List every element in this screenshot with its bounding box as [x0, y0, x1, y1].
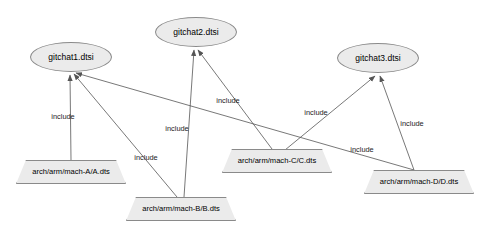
ellipse-node-label: gitchat3.dtsi [355, 54, 400, 63]
trapezoid-node-label: arch/arm/mach-B/B.dts [142, 205, 220, 213]
trapezoid-node-label: arch/arm/mach-A/A.dts [32, 168, 110, 176]
ellipse-node-gitchat3[interactable]: gitchat3.dtsi [337, 43, 419, 73]
edge-machC-to-gitchat3 [285, 76, 375, 150]
diagram-canvas: gitchat1.dtsigitchat2.dtsigitchat3.dtsia… [0, 0, 483, 236]
ellipse-node-gitchat1[interactable]: gitchat1.dtsi [30, 42, 112, 72]
trapezoid-node-machD[interactable]: arch/arm/mach-D/D.dts [364, 170, 474, 194]
trapezoid-node-machB[interactable]: arch/arm/mach-B/B.dts [126, 197, 236, 221]
ellipse-node-label: gitchat2.dtsi [173, 28, 218, 37]
edge-label-e5: include [216, 97, 239, 104]
edge-label-e6: include [304, 109, 327, 116]
edge-label-e1: include [51, 113, 74, 120]
ellipse-node-label: gitchat1.dtsi [48, 53, 93, 62]
edge-label-e4: include [165, 125, 188, 132]
edge-label-e2: include [134, 154, 157, 161]
trapezoid-node-label: arch/arm/mach-C/C.dts [238, 157, 317, 165]
trapezoid-node-machC[interactable]: arch/arm/mach-C/C.dts [222, 149, 332, 173]
trapezoid-node-machA[interactable]: arch/arm/mach-A/A.dts [16, 160, 126, 184]
edge-label-e3: include [350, 146, 373, 153]
trapezoid-node-label: arch/arm/mach-D/D.dts [380, 178, 459, 186]
edge-label-e7: include [400, 120, 423, 127]
ellipse-node-gitchat2[interactable]: gitchat2.dtsi [155, 17, 237, 47]
